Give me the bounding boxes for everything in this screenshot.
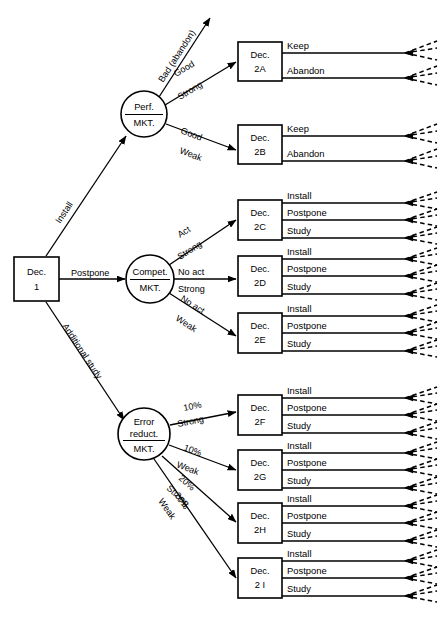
option-2e-install-label: Install xyxy=(287,303,312,314)
edge-error-10-weak-top: 10% xyxy=(182,443,203,459)
edge-error-10-weak-bottom: Weak xyxy=(175,460,201,478)
node-dec-2e-line1: Dec. xyxy=(250,321,269,331)
option-2c-postpone-label: Postpone xyxy=(287,207,327,218)
option-2e-study-label: Study xyxy=(287,338,311,349)
edge-perf-good-weak-top: Good xyxy=(179,126,203,143)
option-2f-install-label: Install xyxy=(287,385,312,396)
node-dec-2d-line1: Dec. xyxy=(250,264,269,274)
option-2b-keep[interactable]: Keep xyxy=(282,123,437,143)
edge-compet-noact-weak-top: No act xyxy=(179,293,207,316)
edge-compet-act-strong-top: Act xyxy=(176,224,193,240)
node-dec-2b[interactable]: Dec. 2B xyxy=(238,125,282,164)
option-2i-postpone-label: Postpone xyxy=(287,565,327,576)
node-error-reduct-mkt[interactable]: Error reduct. MKT. xyxy=(118,408,170,460)
node-dec-1[interactable]: Dec. 1 xyxy=(14,257,59,301)
option-2g-study-label: Study xyxy=(287,475,311,486)
edge-postpone[interactable]: Postpone xyxy=(59,268,125,279)
option-2c-study[interactable]: Study xyxy=(282,225,437,244)
edge-error-10-strong[interactable]: 10% Strong xyxy=(170,400,236,429)
edge-error-20-weak-bottom: Weak xyxy=(156,496,178,521)
node-dec-2g-line1: Dec. xyxy=(250,458,269,468)
option-2b-keep-label: Keep xyxy=(287,123,309,134)
node-dec-2b-box xyxy=(238,125,282,164)
option-2a-keep-label: Keep xyxy=(287,40,309,51)
node-dec-2e[interactable]: Dec. 2E xyxy=(238,313,282,353)
node-dec-2f[interactable]: Dec. 2F xyxy=(238,395,282,435)
edge-perf-good-weak[interactable]: Good Weak xyxy=(166,124,236,163)
option-2d-postpone[interactable]: Postpone xyxy=(282,263,437,282)
edge-compet-noact-strong-top: No act xyxy=(178,267,205,277)
edge-compet-act-strong-bottom: Strong xyxy=(176,239,204,262)
node-dec-2f-line2: 2F xyxy=(255,417,266,427)
node-dec-2b-line2: 2B xyxy=(254,147,265,157)
option-2a-keep[interactable]: Keep xyxy=(282,40,437,60)
option-2h-study[interactable]: Study xyxy=(282,528,437,547)
option-2d-study-label: Study xyxy=(287,281,311,292)
node-dec-2h[interactable]: Dec. 2H xyxy=(238,503,282,543)
option-2i-postpone[interactable]: Postpone xyxy=(282,565,437,584)
edge-error-10-strong-bottom: Strong xyxy=(176,414,204,429)
node-dec-1-box xyxy=(14,257,59,301)
edge-additional-study[interactable]: Additional study xyxy=(46,302,124,420)
node-error-reduct-line2: reduct. xyxy=(130,429,158,439)
option-2f-postpone[interactable]: Postpone xyxy=(282,402,437,421)
option-2i-study-label: Study xyxy=(287,583,311,594)
option-2d-install-label: Install xyxy=(287,246,312,257)
decision-tree-diagram: Dec. 1 Install Postpone Additional study… xyxy=(0,0,446,629)
option-2c-install-label: Install xyxy=(287,190,312,201)
node-dec-2g[interactable]: Dec. 2G xyxy=(238,450,282,490)
edge-compet-noact-weak[interactable]: No act Weak xyxy=(169,293,236,336)
edge-install[interactable]: Install xyxy=(46,136,126,256)
option-2g-study[interactable]: Study xyxy=(282,475,437,494)
option-2f-postpone-label: Postpone xyxy=(287,402,327,413)
option-2h-postpone[interactable]: Postpone xyxy=(282,510,437,529)
node-dec-2g-line2: 2G xyxy=(254,472,266,482)
option-2i-install-label: Install xyxy=(287,548,312,559)
node-dec-2c[interactable]: Dec. 2C xyxy=(238,200,282,240)
edge-postpone-label: Postpone xyxy=(71,268,109,278)
option-2i-study[interactable]: Study xyxy=(282,583,437,602)
node-compet-mkt-line2: MKT. xyxy=(139,283,160,293)
node-dec-2f-line1: Dec. xyxy=(250,403,269,413)
edge-compet-noact-strong[interactable]: No act Strong xyxy=(174,267,236,294)
edge-error-20-weak[interactable]: 20% Weak xyxy=(154,459,236,578)
node-dec-2g-box xyxy=(238,450,282,490)
option-2g-postpone[interactable]: Postpone xyxy=(282,457,437,476)
option-2c-postpone[interactable]: Postpone xyxy=(282,207,437,226)
node-perf-mkt[interactable]: Perf. MKT. xyxy=(121,91,167,137)
option-2e-postpone[interactable]: Postpone xyxy=(282,320,437,339)
edge-compet-act-strong[interactable]: Act Strong xyxy=(169,220,236,265)
option-2d-study[interactable]: Study xyxy=(282,281,437,300)
node-dec-2b-line1: Dec. xyxy=(250,133,269,143)
node-dec-2d[interactable]: Dec. 2D xyxy=(238,256,282,296)
node-dec-2i-box xyxy=(238,558,282,598)
edge-install-label: Install xyxy=(53,200,75,225)
node-dec-2h-box xyxy=(238,503,282,543)
node-dec-2f-box xyxy=(238,395,282,435)
option-2h-install-label: Install xyxy=(287,493,312,504)
option-2c-study-label: Study xyxy=(287,225,311,236)
option-2a-abandon[interactable]: Abandon xyxy=(282,65,437,85)
option-2b-abandon[interactable]: Abandon xyxy=(282,148,437,168)
option-2d-postpone-label: Postpone xyxy=(287,263,327,274)
node-perf-mkt-line1: Perf. xyxy=(134,102,154,112)
edge-error-10-strong-top: 10% xyxy=(182,400,202,413)
node-perf-mkt-line2: MKT. xyxy=(133,118,154,128)
option-2e-postpone-label: Postpone xyxy=(287,320,327,331)
node-dec-2a-line1: Dec. xyxy=(250,50,269,60)
node-dec-2c-box xyxy=(238,200,282,240)
node-dec-2h-line2: 2H xyxy=(254,525,266,535)
node-compet-mkt[interactable]: Compet. MKT. xyxy=(126,255,174,303)
node-dec-2i[interactable]: Dec. 2 I xyxy=(238,558,282,598)
option-2e-study[interactable]: Study xyxy=(282,338,437,357)
node-dec-2e-line2: 2E xyxy=(254,335,265,345)
edge-compet-noact-strong-bottom: Strong xyxy=(178,284,205,294)
node-dec-2h-line1: Dec. xyxy=(250,511,269,521)
option-2f-study[interactable]: Study xyxy=(282,420,437,439)
node-dec-2i-line2: 2 I xyxy=(255,580,265,590)
option-2h-postpone-label: Postpone xyxy=(287,510,327,521)
option-2g-postpone-label: Postpone xyxy=(287,457,327,468)
node-error-reduct-line3: MKT. xyxy=(133,444,154,454)
node-dec-2a[interactable]: Dec. 2A xyxy=(238,42,282,81)
node-dec-2c-line2: 2C xyxy=(254,222,266,232)
